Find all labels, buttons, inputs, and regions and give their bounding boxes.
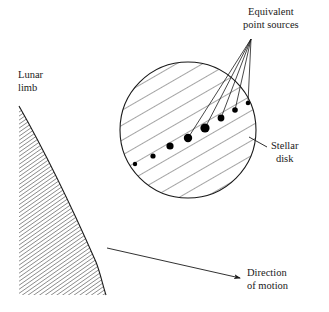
- equivalent-point-sources-label: Equivalent point sources: [243, 6, 299, 31]
- point-source-dot: [200, 123, 209, 132]
- stellar-disk-shape: [116, 58, 262, 204]
- direction-of-motion-arrow: [107, 248, 240, 278]
- lunar-limb-shape: [10, 98, 120, 303]
- point-source-dot: [150, 153, 155, 158]
- lunar-limb-hatching: [10, 98, 120, 303]
- point-source-dot: [232, 107, 238, 113]
- point-source-dot: [246, 101, 251, 106]
- point-source-dot: [133, 162, 137, 166]
- point-source-dot: [184, 134, 192, 142]
- point-source-dot: [166, 142, 173, 149]
- direction-of-motion-label: Direction of motion: [247, 267, 288, 292]
- lunar-limb-label: Lunar limb: [18, 69, 43, 94]
- figure-canvas: Equivalent point sources Lunar limb Stel…: [0, 0, 329, 312]
- stellar-disk-hatching: [116, 58, 262, 204]
- point-source-dot: [218, 115, 225, 122]
- stellar-disk-label: Stellar disk: [271, 140, 298, 165]
